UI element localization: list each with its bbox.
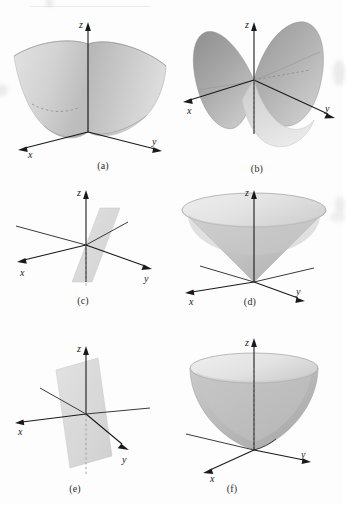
panel-f: z y x <box>168 338 343 478</box>
axis-d-z-label: z <box>244 187 249 198</box>
axis-a-y-arrow <box>152 147 162 153</box>
panel-d-caption: (d) <box>230 296 270 307</box>
axis-b-y-arrow <box>324 113 335 118</box>
axis-d-y-arrow <box>295 297 305 303</box>
panel-c-caption: (c) <box>63 295 103 306</box>
axis-a-x-label: x <box>27 149 33 160</box>
axis-c-z-arrow <box>83 190 89 199</box>
axis-e-y-arrow <box>118 444 129 450</box>
axis-a-y-label: y <box>151 136 157 147</box>
axis-e-x-arrow <box>15 420 24 426</box>
panel-f-caption: (f) <box>212 483 252 494</box>
axis-b-x-arrow <box>183 98 193 104</box>
axis-d-x-arrow <box>185 290 194 296</box>
surface-b-left-lobe <box>193 31 254 128</box>
axis-c-z-label: z <box>76 187 81 198</box>
surface-a-left-wing <box>14 41 88 138</box>
axis-c-x-back <box>16 226 86 245</box>
axis-c-x-label: x <box>19 267 25 278</box>
axis-f-z-label: z <box>244 337 249 348</box>
panel-a: z y x <box>0 8 172 160</box>
axis-e-y-label: y <box>121 454 127 465</box>
scan-artifact-top-blob <box>46 0 53 6</box>
panel-b-caption: (b) <box>237 163 277 174</box>
axis-f-z-arrow <box>251 338 257 347</box>
axis-f-x <box>210 450 254 470</box>
axis-d-x <box>192 282 254 292</box>
axis-a-y <box>88 132 155 149</box>
axis-c-y-label: y <box>143 273 149 284</box>
axis-a-z-arrow <box>85 22 91 31</box>
axis-b-z-label: z <box>244 19 249 30</box>
axis-b-z-arrow <box>251 22 257 31</box>
axis-e-z-arrow <box>83 346 89 355</box>
axis-a-x-arrow <box>18 146 28 152</box>
axis-b-x-label: x <box>186 105 192 116</box>
panel-e-caption: (e) <box>55 483 95 494</box>
axis-f-y <box>254 450 304 460</box>
panel-c: z y x <box>0 182 172 308</box>
axis-d-x-label: x <box>188 296 194 307</box>
scan-artifact-top <box>30 6 150 7</box>
panel-a-caption: (a) <box>83 160 123 171</box>
axis-c-x-arrow <box>17 258 27 264</box>
axis-e-z-label: z <box>76 343 81 354</box>
axis-d-y-label: y <box>295 286 301 297</box>
panel-b: z y x <box>168 8 343 160</box>
axis-b-y-label: y <box>324 103 330 114</box>
axis-e-x-label: x <box>17 426 23 437</box>
axis-c-x <box>24 245 86 260</box>
panel-d: z y x <box>168 182 343 308</box>
axis-a-z-label: z <box>78 19 83 30</box>
surface-c-plane <box>72 208 120 282</box>
axis-f-y-label: y <box>300 449 306 460</box>
panel-e: z y x <box>0 338 172 478</box>
surface-a-right-wing <box>88 42 166 136</box>
